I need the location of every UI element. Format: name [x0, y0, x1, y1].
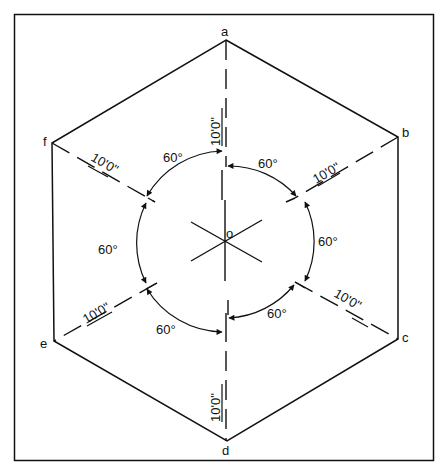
vertex-label-a: a — [221, 24, 229, 39]
vertex-label-f: f — [43, 134, 47, 149]
radius-label-oc: 10'0" — [332, 286, 369, 327]
angle-label-de: 60° — [156, 322, 176, 337]
hexagon-diagram: o 60° 60° 60° 60° 60° 60° 10'0" 10'0" 10… — [0, 0, 442, 470]
diagram-canvas: o 60° 60° 60° 60° 60° 60° 10'0" 10'0" 10… — [0, 0, 442, 470]
radius-label-oe: 10'0" — [80, 299, 113, 327]
radius-label-oa: 10'0" — [208, 108, 223, 146]
angle-label-ab: 60° — [258, 156, 278, 171]
vertex-label-c: c — [402, 330, 409, 345]
vertex-label-e: e — [40, 336, 47, 351]
border-frame — [15, 15, 434, 461]
svg-text:10'0": 10'0" — [208, 117, 223, 146]
svg-text:10'0": 10'0" — [208, 393, 223, 422]
svg-text:10'0": 10'0" — [80, 299, 113, 327]
angle-label-af: 60° — [163, 150, 183, 165]
angle-label-cd: 60° — [267, 306, 287, 321]
vertex-label-d: d — [222, 443, 229, 458]
radius-label-ob: 10'0" — [310, 159, 343, 187]
vertex-label-b: b — [402, 125, 409, 140]
svg-text:10'0": 10'0" — [310, 159, 343, 187]
center-label: o — [226, 226, 233, 241]
angle-label-bc: 60° — [318, 234, 338, 249]
radius-label-od: 10'0" — [208, 384, 223, 422]
angle-label-ef: 60° — [98, 242, 118, 257]
svg-text:10'0": 10'0" — [332, 286, 365, 314]
